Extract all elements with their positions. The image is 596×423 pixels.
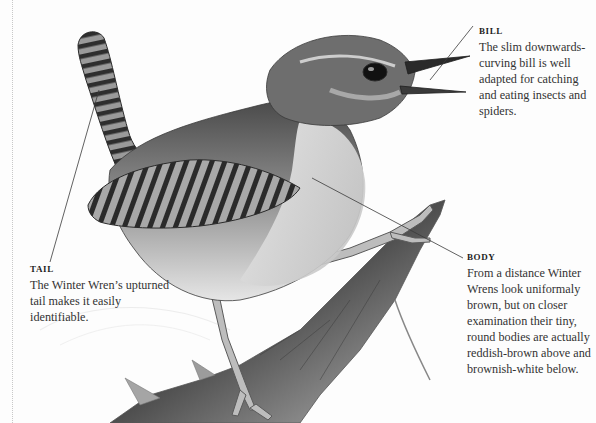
callout-body-title: BODY xyxy=(467,252,595,263)
callout-bill-title: BILL xyxy=(479,26,596,37)
callout-body-text: From a distance Winter Wrens look unifor… xyxy=(467,265,595,377)
callout-bill: BILL The slim downwards-curving bill is … xyxy=(479,26,596,119)
callout-tail-title: TAIL xyxy=(30,264,170,275)
callout-tail-text: The Winter Wren’s upturned tail makes it… xyxy=(30,277,170,325)
tail-leader-line xyxy=(50,90,99,262)
head-drawing xyxy=(266,35,415,125)
callout-tail: TAIL The Winter Wren’s upturned tail mak… xyxy=(30,264,170,325)
callout-body: BODY From a distance Winter Wrens look u… xyxy=(467,252,595,377)
callout-bill-text: The slim downwards-curving bill is well … xyxy=(479,39,596,119)
field-guide-page: BILL The slim downwards-curving bill is … xyxy=(0,0,596,423)
bill-leader-line xyxy=(430,26,473,80)
eye-drawing xyxy=(363,63,387,81)
